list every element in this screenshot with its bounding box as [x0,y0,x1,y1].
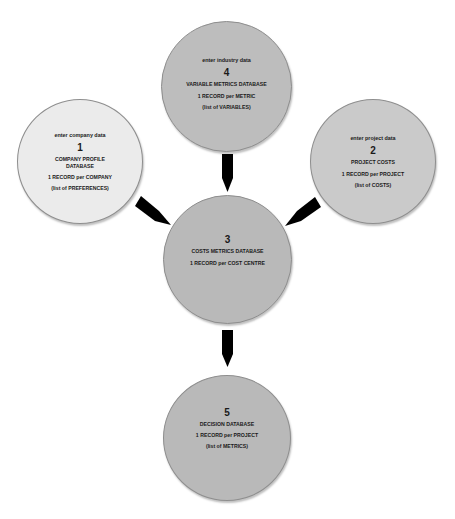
node-intro: enter company data [55,132,106,138]
node-number: 4 [224,67,230,78]
node-company-profile-database: enter company data 1 COMPANY PROFILE DAT… [17,99,143,224]
node-intro: enter industry data [202,57,251,63]
node-list: (list of METRICS) [206,443,248,449]
node-title: COSTS METRICS DATABASE [191,248,263,254]
arrow-3-to-5-icon [222,330,233,367]
node-record: 1 RECORD per PROJECT [196,432,258,438]
node-number: 3 [225,234,231,245]
node-number: 2 [370,145,376,156]
node-title: PROJECT COSTS [351,159,395,165]
node-list: (list of COSTS) [355,182,392,188]
arrow-2-to-3-icon [285,197,321,226]
node-title: DECISION DATABASE [200,421,255,427]
node-costs-metrics-database: 3 COSTS METRICS DATABASE 1 RECORD per CO… [163,195,292,324]
node-record: 1 RECORD per COMPANY [48,174,112,180]
node-record: 1 RECORD per COST CENTRE [190,260,265,266]
node-intro: enter project data [350,135,395,141]
database-flow-diagram: enter company data 1 COMPANY PROFILE DAT… [0,0,455,519]
node-title: VARIABLE METRICS DATABASE [186,81,266,87]
node-number: 1 [77,142,83,153]
node-number: 5 [224,407,230,418]
node-decision-database: 5 DECISION DATABASE 1 RECORD per PROJECT… [163,375,291,501]
node-project-costs: enter project data 2 PROJECT COSTS 1 REC… [310,99,436,224]
node-list: (list of VARIABLES) [202,104,250,110]
node-variable-metrics-database: enter industry data 4 VARIABLE METRICS D… [161,21,292,152]
arrow-1-to-3-icon [135,196,171,225]
node-record: 1 RECORD per METRIC [198,93,256,99]
node-list: (list of PREFERENCES) [51,185,109,191]
node-record: 1 RECORD per PROJECT [342,171,404,177]
node-title: COMPANY PROFILE DATABASE [55,156,105,169]
arrow-4-to-3-icon [222,154,233,192]
